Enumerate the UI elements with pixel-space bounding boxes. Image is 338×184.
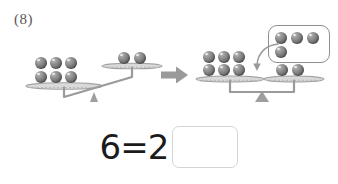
ball [50,71,62,83]
ball [203,64,215,76]
unbalanced-scale [24,50,164,110]
fulcrum [90,92,98,102]
right-arrow-icon [161,66,189,84]
answer-input-box[interactable] [172,126,238,168]
equation-expression: 6=2 [100,130,169,164]
ball [65,57,77,69]
problem-number-label: (8) [14,12,33,27]
ball [218,64,230,76]
ball [65,71,77,83]
equation-row: 6=2 [0,126,338,168]
ball [218,51,230,63]
ball [203,51,215,63]
ball [35,57,47,69]
ball [233,51,245,63]
curved-down-arrow-icon [252,43,280,73]
ball [233,64,245,76]
ball [291,32,303,44]
worksheet-page: (8) [0,0,338,184]
ball [118,52,130,64]
ball [35,71,47,83]
ball [307,32,319,44]
ball [50,57,62,69]
ball [134,52,146,64]
ball [292,64,304,76]
